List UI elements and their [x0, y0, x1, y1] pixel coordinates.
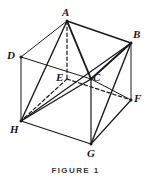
vertex-label-d: D [7, 50, 15, 61]
figure-caption: FIGURE 1 [0, 166, 151, 175]
edge-e-h [21, 79, 67, 121]
vertex-dot-h [20, 120, 23, 123]
figure-container: ABCDEFGH FIGURE 1 [0, 0, 151, 183]
edge-a-d [21, 21, 67, 57]
vertex-label-c: C [93, 72, 100, 83]
edge-layer [21, 21, 131, 144]
vertex-dot-g [90, 143, 93, 146]
vertex-label-f: F [134, 93, 141, 104]
vertex-dot-f [130, 99, 133, 102]
vertex-label-h: H [10, 124, 19, 135]
edge-a-b [67, 21, 131, 43]
edge-c-h [21, 79, 91, 121]
vertex-label-e: E [56, 72, 63, 83]
edge-a-c [67, 21, 91, 79]
vertex-dot-b [130, 42, 133, 45]
vertex-dot-d [20, 56, 23, 59]
edge-h-g [21, 121, 91, 144]
vertex-dot-a [66, 20, 69, 23]
edge-b-g [91, 43, 131, 144]
vertex-label-g: G [87, 148, 95, 159]
vertex-label-b: B [133, 29, 140, 40]
edge-g-f [91, 100, 131, 144]
cube-diagram [0, 0, 151, 183]
vertex-label-a: A [62, 7, 69, 18]
